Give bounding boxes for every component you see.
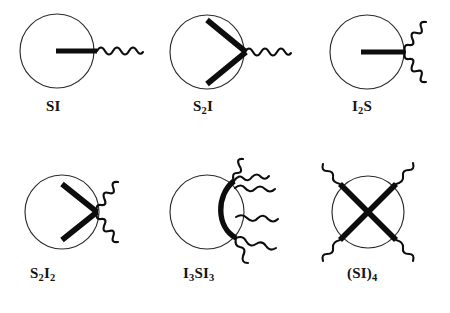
- structure-s2i2-drawing: [0, 160, 160, 270]
- s-block-arm-lower: [62, 212, 97, 240]
- label-text-si4-base: (SI): [347, 265, 372, 281]
- structure-label-si4: (SI)4: [347, 265, 377, 283]
- structure-si: [0, 0, 160, 100]
- structure-label-s2i2: S2I2: [30, 265, 56, 283]
- i-block-arm-lower-right: [396, 240, 414, 261]
- structure-si4: [310, 150, 450, 280]
- s-block-arm-upper-right: [368, 184, 396, 212]
- i-block-arm-top-2: [234, 175, 269, 182]
- i-block-arm-top-3: [235, 186, 275, 192]
- i-block-arm-lower: [97, 212, 119, 242]
- i-block-arm-bottom-1: [236, 215, 278, 221]
- label-text-i3si3-mid: S: [195, 265, 204, 281]
- structure-s2i: [150, 0, 310, 100]
- structure-i2s-drawing: [310, 0, 450, 100]
- s-block-backbone: [221, 181, 236, 238]
- structure-i3si3-drawing: [150, 155, 320, 280]
- label-text-i2s-tail: S: [364, 98, 373, 114]
- block-copolymer-architecture-figure: SI S2I I2S S2I2: [0, 0, 450, 313]
- i-block-arm: [245, 49, 291, 56]
- structure-label-i2s: I2S: [352, 98, 372, 116]
- label-sub-si4: 4: [372, 272, 377, 283]
- label-sub-s2i2-second: 2: [50, 272, 55, 283]
- s-block-arm-lower-left: [340, 212, 368, 240]
- structure-s2i-drawing: [150, 0, 310, 100]
- structure-label-s2i: S2I: [193, 98, 213, 116]
- structure-s2i2: [0, 160, 160, 270]
- i-block-arm-upper: [405, 22, 427, 52]
- micelle-core-circle: [170, 15, 244, 89]
- i-block-arm-upper: [97, 182, 119, 212]
- s-block-arm-upper-left: [340, 184, 368, 212]
- label-text-s2i-tail: I: [207, 98, 213, 114]
- s-block-arm-upper: [62, 184, 97, 212]
- s-block-arm-lower-right: [368, 212, 396, 240]
- structure-i3si3: [150, 155, 320, 280]
- structure-si-drawing: [0, 0, 160, 100]
- i-block-arm-upper-right: [396, 163, 414, 184]
- i-block-arm-lower-left: [323, 240, 341, 261]
- label-text-s2i2-base: S: [30, 265, 39, 281]
- label-text-si: SI: [46, 98, 61, 114]
- label-sub-i3si3-second: 3: [209, 272, 214, 283]
- i-block-arm-lower: [405, 52, 427, 82]
- structure-label-i3si3: I3SI3: [183, 265, 215, 283]
- structure-i2s: [310, 0, 450, 100]
- structure-label-si: SI: [46, 98, 61, 115]
- i-block-arm-upper-left: [323, 164, 341, 184]
- label-text-s2i-base: S: [193, 98, 202, 114]
- structure-si4-drawing: [310, 150, 450, 280]
- i-block-arm: [97, 48, 143, 55]
